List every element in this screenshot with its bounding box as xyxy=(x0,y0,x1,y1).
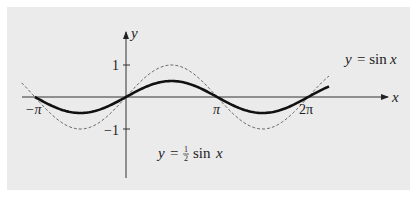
tick-label-neg-pi: −π xyxy=(25,102,42,117)
label-sin-x: y = sin x xyxy=(343,51,397,67)
svg-text:y: y xyxy=(343,51,352,67)
svg-text:= sin: = sin xyxy=(357,51,387,67)
svg-text:=: = xyxy=(170,145,178,161)
tick-label-2pi: 2π xyxy=(299,102,313,117)
svg-text:2: 2 xyxy=(184,154,188,163)
tick-label-neg1: −1 xyxy=(104,123,119,138)
tick-label-pi: π xyxy=(213,102,221,117)
svg-text:1: 1 xyxy=(184,145,188,154)
tick-label-1: 1 xyxy=(112,58,119,73)
svg-text:x: x xyxy=(215,145,223,161)
chart: −π π 2π 1 −1 x y y = sin x y = 1 2 sin x xyxy=(0,0,417,199)
label-half-sin-x: y = 1 2 sin x xyxy=(156,145,223,163)
y-axis-label: y xyxy=(129,25,138,41)
svg-text:x: x xyxy=(389,51,397,67)
svg-text:y: y xyxy=(156,145,165,161)
x-axis-label: x xyxy=(391,89,399,105)
svg-text:sin: sin xyxy=(193,145,211,161)
